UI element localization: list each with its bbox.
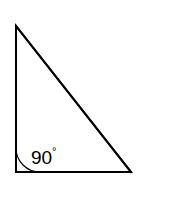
figure-canvas: 90 ° (0, 0, 169, 205)
degree-symbol-label: ° (52, 145, 56, 157)
angle-value-label: 90 (31, 147, 52, 168)
right-triangle-diagram: 90 ° (0, 0, 169, 205)
